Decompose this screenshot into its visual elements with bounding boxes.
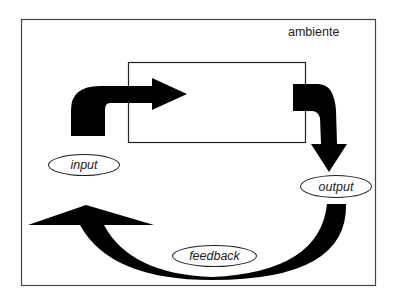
output-arrow-icon	[293, 84, 347, 172]
output-node: output	[300, 175, 372, 198]
feedback-arrow-icon	[28, 204, 346, 280]
input-node: input	[48, 154, 120, 176]
feedback-node: feedback	[172, 245, 257, 267]
environment-label: ambiente	[288, 25, 339, 39]
